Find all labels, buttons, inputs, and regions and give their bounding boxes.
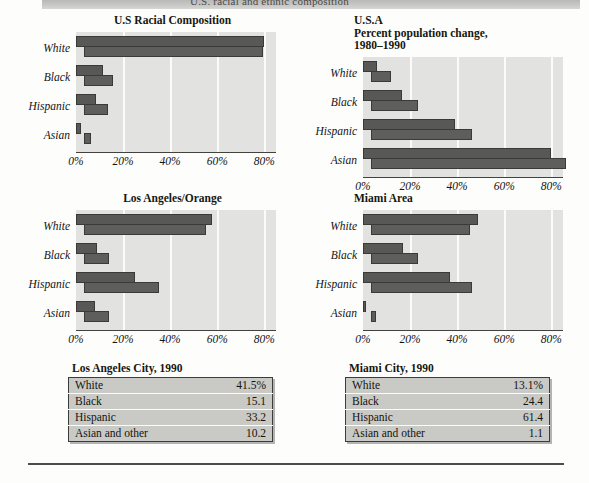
category-label-white: White: [330, 220, 363, 232]
bar-asian-upper: [76, 123, 81, 134]
chart-body: WhiteBlackHispanicAsian0%20%40%60%80%: [10, 32, 295, 174]
gridline: [504, 210, 506, 330]
chart-body: WhiteBlackHispanicAsian0%20%40%60%80%: [297, 57, 585, 199]
category-label-hispanic: Hispanic: [315, 125, 363, 137]
x-axis-tick-80: 80%: [541, 180, 562, 192]
x-axis-tick-0: 0%: [355, 180, 370, 192]
gridline: [217, 210, 219, 330]
category-label-hispanic: Hispanic: [28, 278, 76, 290]
plot-area: [76, 32, 276, 153]
category-label-asian: Asian: [331, 307, 363, 319]
category-label-asian: Asian: [44, 129, 76, 141]
chart-body: WhiteBlackHispanicAsian0%20%40%60%80%: [297, 210, 585, 352]
x-axis-tick-20: 20%: [400, 333, 421, 345]
category-label-hispanic: Hispanic: [315, 278, 363, 290]
bar-black-lower: [371, 253, 418, 264]
table-cell-value: 1.1: [482, 426, 550, 442]
table-caption: Miami City, 1990: [345, 362, 555, 374]
x-axis-tick-0: 0%: [68, 155, 83, 167]
category-label-asian: Asian: [44, 307, 76, 319]
bar-white-lower: [371, 71, 391, 82]
table-cell-label: Asian and other: [346, 426, 482, 442]
x-axis-tick-40: 40%: [160, 333, 181, 345]
x-axis-tick-80: 80%: [254, 333, 275, 345]
chart-panel-los-angeles-orange: Los Angeles/Orange WhiteBlackHispanicAsi…: [10, 192, 295, 360]
plot-area: [76, 210, 276, 331]
bar-asian-lower: [371, 158, 566, 169]
chart-title: U.S.A Percent population change, 1980–19…: [297, 14, 585, 52]
data-table: White41.5%Black15.1Hispanic33.2Asian and…: [68, 377, 273, 442]
x-axis: 0%20%40%60%80%: [76, 333, 276, 349]
category-label-white: White: [330, 67, 363, 79]
chart-panel-miami-area: Miami Area WhiteBlackHispanicAsian0%20%4…: [297, 192, 585, 360]
plot-area: [363, 210, 563, 331]
x-axis-tick-60: 60%: [494, 180, 515, 192]
table-block-miami-city-1990: Miami City, 1990 White13.1%Black24.4Hisp…: [345, 362, 555, 442]
table-cell-label: White: [346, 378, 482, 394]
chart-title: Los Angeles/Orange: [10, 192, 295, 205]
table-cell-label: Asian and other: [69, 426, 205, 442]
bar-white-lower: [371, 224, 470, 235]
x-axis-tick-40: 40%: [447, 180, 468, 192]
chart-panel-us-racial-composition: U.S Racial Composition WhiteBlackHispani…: [10, 14, 295, 192]
page-header-title: U.S. racial and ethnic composition: [190, 0, 349, 7]
category-label-black: Black: [331, 96, 363, 108]
bar-hispanic-lower: [371, 129, 472, 140]
x-axis: 0%20%40%60%80%: [76, 155, 276, 171]
x-axis-tick-20: 20%: [113, 333, 134, 345]
table-cell-value: 41.5%: [205, 378, 273, 394]
x-axis-tick-60: 60%: [494, 333, 515, 345]
table-row: Asian and other1.1: [346, 426, 550, 442]
table-cell-label: Black: [69, 394, 205, 410]
x-axis: 0%20%40%60%80%: [363, 333, 563, 349]
x-axis-tick-60: 60%: [207, 155, 228, 167]
table-row: Black15.1: [69, 394, 273, 410]
table-cell-value: 24.4: [482, 394, 550, 410]
plot-area: [363, 57, 563, 178]
table-row: Hispanic61.4: [346, 410, 550, 426]
x-axis-tick-0: 0%: [355, 333, 370, 345]
x-axis-tick-0: 0%: [68, 333, 83, 345]
chart-title: U.S Racial Composition: [10, 14, 295, 27]
data-table: White13.1%Black24.4Hispanic61.4Asian and…: [345, 377, 550, 442]
table-cell-label: White: [69, 378, 205, 394]
bar-black-lower: [84, 75, 113, 86]
table-cell-label: Hispanic: [346, 410, 482, 426]
table-block-los-angeles-city-1990: Los Angeles City, 1990 White41.5%Black15…: [68, 362, 278, 442]
x-axis-tick-20: 20%: [113, 155, 134, 167]
table-row: White13.1%: [346, 378, 550, 394]
footer-divider: [28, 463, 564, 465]
table-row: Asian and other10.2: [69, 426, 273, 442]
table-row: Hispanic33.2: [69, 410, 273, 426]
x-axis-tick-20: 20%: [400, 180, 421, 192]
category-label-white: White: [43, 42, 76, 54]
bar-asian-lower: [84, 133, 91, 144]
gridline: [264, 210, 266, 330]
category-label-asian: Asian: [331, 154, 363, 166]
table-cell-value: 13.1%: [482, 378, 550, 394]
table-row: White41.5%: [69, 378, 273, 394]
x-axis-tick-80: 80%: [254, 155, 275, 167]
category-label-white: White: [43, 220, 76, 232]
chart-panel-usa-percent-population-change: U.S.A Percent population change, 1980–19…: [297, 14, 585, 192]
chart-title: Miami Area: [297, 192, 585, 205]
table-cell-value: 33.2: [205, 410, 273, 426]
gridline: [551, 210, 553, 330]
category-label-black: Black: [44, 249, 76, 261]
bar-black-lower: [371, 100, 418, 111]
bar-asian-upper: [363, 301, 366, 312]
gridline: [264, 32, 266, 152]
table-cell-value: 15.1: [205, 394, 273, 410]
bar-white-lower: [84, 46, 263, 57]
page-header-band: U.S. racial and ethnic composition: [42, 0, 580, 9]
x-axis-tick-40: 40%: [447, 333, 468, 345]
table-cell-value: 61.4: [482, 410, 550, 426]
category-label-black: Black: [44, 71, 76, 83]
table-cell-label: Black: [346, 394, 482, 410]
category-label-hispanic: Hispanic: [28, 100, 76, 112]
chart-grid: U.S Racial Composition WhiteBlackHispani…: [0, 14, 589, 360]
bar-hispanic-lower: [84, 104, 108, 115]
table-caption: Los Angeles City, 1990: [68, 362, 278, 374]
bar-asian-lower: [371, 311, 376, 322]
table-cell-label: Hispanic: [69, 410, 205, 426]
